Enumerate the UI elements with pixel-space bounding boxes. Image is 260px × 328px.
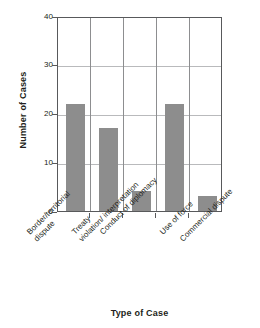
x-axis-title: Type of Case [57, 308, 222, 318]
x-label-border-territorial-dispute: Border/territorial dispute [25, 189, 79, 243]
x-axis-labels: Border/territorial dispute Treaty violat… [0, 0, 260, 328]
x-label-line2: violation/ interpretation [77, 180, 141, 244]
bar-chart: Number of Cases 40 30 20 10 0 Border/ter… [0, 0, 260, 328]
x-label-line1: Commercial dispute [178, 187, 234, 243]
x-label-commercial-dispute: Commercial dispute [178, 187, 235, 244]
